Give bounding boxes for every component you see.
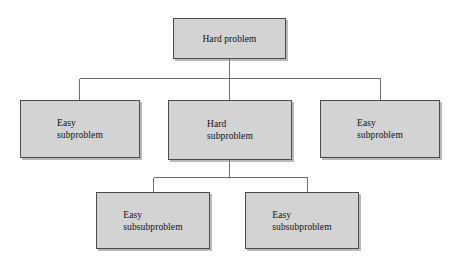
recursion-tree-diagram: Hard problem Easy subproblem Hard subpro…: [0, 0, 458, 270]
node-label-hard-subproblem: Hard subproblem: [207, 118, 253, 142]
node-label-hard-problem: Hard problem: [202, 33, 256, 45]
node-label-easy-subproblem-left: Easy subproblem: [57, 117, 103, 141]
node-easy-subsubproblem-right: Easy subsubproblem: [245, 192, 359, 249]
node-label-easy-subsubproblem-right: Easy subsubproblem: [272, 209, 331, 233]
node-label-easy-subsubproblem-left: Easy subsubproblem: [123, 209, 182, 233]
node-easy-subsubproblem-left: Easy subsubproblem: [96, 192, 210, 249]
node-hard-problem: Hard problem: [173, 18, 286, 59]
node-label-easy-subproblem-right: Easy subproblem: [357, 117, 403, 141]
node-easy-subproblem-left: Easy subproblem: [20, 100, 140, 158]
node-hard-subproblem: Hard subproblem: [168, 100, 292, 160]
node-easy-subproblem-right: Easy subproblem: [320, 100, 440, 158]
